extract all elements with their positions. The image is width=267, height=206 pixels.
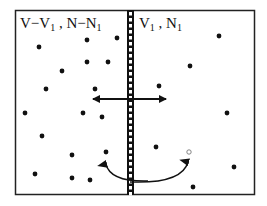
particle bbox=[157, 84, 162, 89]
particle bbox=[88, 178, 93, 183]
particle bbox=[93, 87, 98, 92]
right-region-label: V1 , N1 bbox=[139, 15, 182, 33]
particle bbox=[33, 172, 38, 177]
particle bbox=[40, 134, 45, 139]
particle bbox=[191, 185, 196, 190]
particle bbox=[44, 87, 49, 92]
particle bbox=[85, 38, 90, 43]
particle bbox=[225, 111, 230, 116]
particle bbox=[217, 34, 222, 39]
particle bbox=[106, 60, 111, 65]
particle bbox=[232, 165, 237, 170]
particle bbox=[85, 60, 90, 65]
vacated-particle bbox=[187, 150, 191, 154]
particle bbox=[70, 153, 75, 158]
particle bbox=[154, 145, 159, 150]
subsystem-exchange-diagram: V−V1 , N−N1 V1 , N1 bbox=[0, 0, 267, 206]
left-region-label: V−V1 , N−N1 bbox=[20, 15, 102, 33]
particle bbox=[23, 111, 28, 116]
particle bbox=[81, 111, 86, 116]
particle bbox=[188, 64, 193, 69]
particle bbox=[70, 176, 75, 181]
particle bbox=[100, 115, 105, 120]
particle bbox=[60, 69, 65, 74]
partition-wall bbox=[127, 10, 134, 196]
particle bbox=[115, 36, 120, 41]
particle bbox=[37, 45, 42, 50]
particle bbox=[104, 150, 109, 155]
